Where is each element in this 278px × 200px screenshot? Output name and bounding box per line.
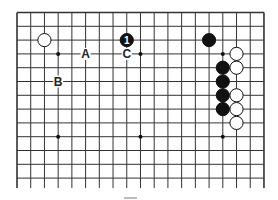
white-stone [230, 61, 243, 74]
black-stone [216, 103, 229, 116]
star-point [221, 52, 225, 56]
black-stone [202, 34, 215, 47]
point-label-a: A [81, 47, 90, 61]
go-board: ACB1 [0, 0, 278, 200]
black-stone [216, 75, 229, 88]
black-stone [216, 89, 229, 102]
star-point [56, 52, 60, 56]
white-stone [230, 103, 243, 116]
point-label-b: B [54, 75, 63, 89]
white-stone [230, 89, 243, 102]
star-point [138, 135, 142, 139]
point-label-c: C [122, 47, 131, 61]
star-point [138, 52, 142, 56]
white-stone [38, 34, 51, 47]
black-stone [216, 61, 229, 74]
white-stone [230, 116, 243, 129]
white-stone [230, 47, 243, 60]
caption-fragment [124, 197, 137, 199]
star-point [56, 135, 60, 139]
star-point [221, 135, 225, 139]
move-number-label: 1 [124, 35, 130, 46]
